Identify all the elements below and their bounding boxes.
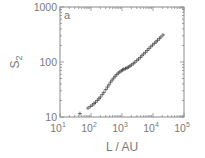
data-point-marker bbox=[161, 33, 165, 37]
x-tick-label: 105 bbox=[174, 121, 190, 134]
y-axis-label-subscript: 2 bbox=[14, 55, 24, 60]
y-axis-label-main: S bbox=[8, 61, 22, 69]
y-tick-label: 1000 bbox=[34, 1, 58, 13]
panel-label: a bbox=[64, 9, 71, 21]
x-tick-label: 104 bbox=[143, 121, 159, 134]
x-tick-label: 103 bbox=[112, 121, 128, 134]
chart: a 101001000 101102103104105 L / AU S2 bbox=[0, 0, 205, 158]
plot-frame bbox=[60, 7, 184, 117]
axis-ticks bbox=[60, 7, 184, 117]
plot-border bbox=[60, 7, 184, 117]
svg-text:S2: S2 bbox=[8, 55, 24, 68]
x-tick-label: 101 bbox=[50, 121, 66, 134]
y-tick-label: 100 bbox=[39, 56, 57, 68]
data-points bbox=[78, 33, 165, 116]
y-tick-labels: 101001000 bbox=[34, 1, 58, 123]
x-tick-label: 102 bbox=[81, 121, 97, 134]
x-tick-labels: 101102103104105 bbox=[50, 121, 190, 134]
y-axis-label: S2 bbox=[8, 55, 24, 68]
x-axis-label: L / AU bbox=[106, 140, 138, 154]
